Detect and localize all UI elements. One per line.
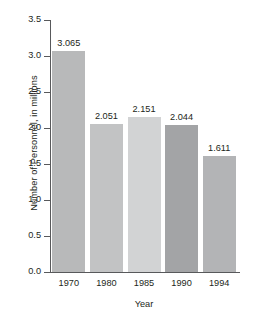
bar-fill (90, 124, 123, 272)
bar[interactable]: 2.044 (165, 125, 198, 272)
bar-fill (52, 51, 85, 272)
bars-layer: 3.06519702.05119802.15119852.04419901.61… (0, 0, 259, 323)
bar[interactable]: 2.151 (128, 117, 161, 272)
bar-value-label: 3.065 (57, 39, 80, 48)
bar[interactable]: 3.065 (52, 51, 85, 272)
bar-fill (203, 156, 236, 272)
x-axis-tick-label: 1985 (134, 279, 154, 288)
bar-value-label: 2.051 (95, 112, 118, 121)
bar-fill (165, 125, 198, 272)
x-axis-title: Year (50, 299, 238, 309)
bar-value-label: 2.044 (170, 113, 193, 122)
bar-fill (128, 117, 161, 272)
bar-value-label: 2.151 (133, 105, 156, 114)
bar-value-label: 1.611 (208, 144, 230, 153)
x-axis-tick-label: 1994 (209, 279, 229, 288)
bar[interactable]: 1.611 (203, 156, 236, 272)
bar-chart: Number of Personnel, in millions 0.00.51… (0, 0, 259, 323)
x-axis-tick-label: 1970 (59, 279, 79, 288)
x-axis-tick-label: 1990 (171, 279, 191, 288)
x-axis-tick-label: 1980 (96, 279, 116, 288)
bar[interactable]: 2.051 (90, 124, 123, 272)
